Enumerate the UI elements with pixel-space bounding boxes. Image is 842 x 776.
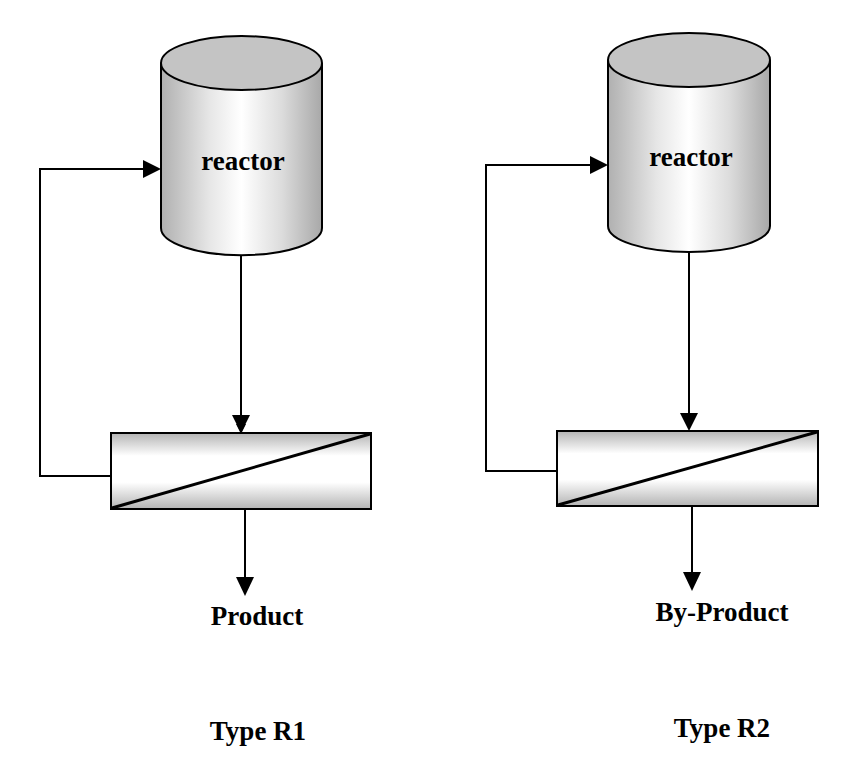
recycle-line: [486, 165, 592, 471]
type-r1-caption: Type R1: [210, 718, 306, 745]
type-r2-caption: Type R2: [674, 715, 770, 742]
process-diagram: [0, 0, 842, 776]
recycle-arrowhead-icon: [590, 156, 608, 174]
config-r1: [40, 36, 371, 596]
reactor-label-r2: reactor: [649, 144, 732, 171]
by-product-label: By-Product: [656, 599, 789, 626]
config-r2: [486, 33, 818, 591]
recycle-line: [40, 169, 145, 476]
product-label: Product: [211, 603, 304, 630]
membrane-separator-icon: [111, 433, 371, 509]
membrane-separator-icon: [557, 431, 818, 506]
reactor-label-r1: reactor: [201, 148, 284, 175]
recycle-arrowhead-icon: [143, 160, 161, 178]
